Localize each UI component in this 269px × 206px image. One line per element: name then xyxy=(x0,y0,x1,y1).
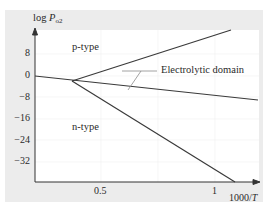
x-axis-label: 1000/T xyxy=(229,193,257,203)
y-tick-label: 0 xyxy=(6,70,30,80)
n-type-label: n-type xyxy=(72,122,99,133)
electrolytic-domain-label: Electrolytic domain xyxy=(161,65,244,76)
y-axis-arrow-icon xyxy=(33,28,38,35)
grid-lines xyxy=(35,30,259,182)
y-tick-label: −8 xyxy=(6,92,30,102)
p-type-label: p-type xyxy=(72,42,99,53)
y-tick-label: −16 xyxy=(6,113,30,123)
axes xyxy=(33,28,261,185)
diagram-canvas xyxy=(0,0,269,206)
x-axis-arrow-icon xyxy=(253,180,260,185)
data-lines xyxy=(35,30,258,182)
x-tick-label: 0.5 xyxy=(94,186,107,196)
equilibrium-line xyxy=(35,76,258,100)
y-tick-label: 8 xyxy=(6,48,30,58)
y-axis-label: log Po2 xyxy=(33,13,62,25)
x-tick-label: 1 xyxy=(212,186,217,196)
y-tick-label: −24 xyxy=(6,135,30,145)
y-tick-label: −32 xyxy=(6,156,30,166)
